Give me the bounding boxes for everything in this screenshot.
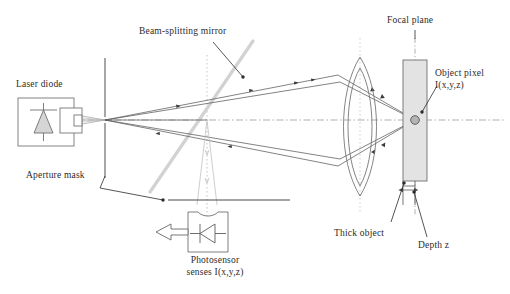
label-depth-z: Depth z	[418, 240, 449, 252]
label-leader-lines	[100, 30, 437, 237]
label-beam-splitting-mirror: Beam-splitting mirror	[139, 26, 226, 38]
laser-emission-cone	[82, 116, 105, 124]
depth-z-measure	[403, 181, 415, 205]
label-thick-object: Thick object	[334, 228, 384, 240]
signal-output-arrow	[156, 224, 188, 240]
ray-direction-arrows	[155, 79, 385, 155]
label-object-pixel: Object pixel I(x,y,z)	[435, 68, 484, 91]
laser-diode-symbol	[18, 98, 82, 146]
label-photosensor: Photosensor senses I(x,y,z)	[160, 255, 270, 278]
object-pixel-marker	[411, 116, 420, 125]
label-focal-plane: Focal plane	[387, 15, 433, 27]
photosensor-symbol	[188, 212, 228, 252]
label-aperture-mask: Aperture mask	[26, 170, 85, 182]
optical-diagram-figure: Laser diode Aperture mask Beam-splitting…	[0, 0, 510, 294]
label-laser-diode: Laser diode	[16, 79, 63, 91]
